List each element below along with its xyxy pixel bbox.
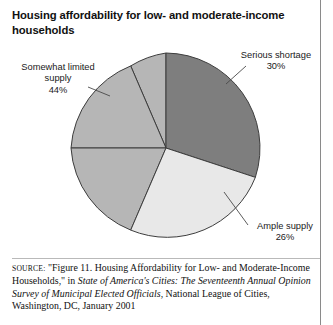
pie-label-ample-supply-line1: Ample supply xyxy=(257,221,313,231)
pie-label-ample-supply: Ample supply 26% xyxy=(245,221,325,244)
source-kicker: Source: xyxy=(12,264,45,273)
source-note: Source: "Figure 11. Housing Affordabilit… xyxy=(12,262,315,312)
pie-label-somewhat-limited-supply-line1: Somewhat limited xyxy=(21,62,94,72)
pie-label-somewhat-limited-supply-value: 44% xyxy=(6,85,110,96)
pie-label-somewhat-limited-supply: Somewhat limited supply 44% xyxy=(6,62,110,96)
figure-container: Housing affordability for low- and moder… xyxy=(0,0,333,325)
pie-label-serious-shortage-value: 30% xyxy=(228,61,324,72)
pie-label-serious-shortage-line1: Serious shortage xyxy=(241,50,311,60)
pie-label-serious-shortage: Serious shortage 30% xyxy=(228,50,324,73)
pie-label-ample-supply-value: 26% xyxy=(245,232,325,243)
page-title: Housing affordability for low- and moder… xyxy=(12,8,300,37)
pie-chart-plot-area: Somewhat limited supply 44% Serious shor… xyxy=(0,40,320,252)
pie-label-somewhat-limited-supply-line2: supply xyxy=(45,73,72,83)
frame-right-rule xyxy=(320,0,321,325)
source-divider xyxy=(12,258,320,259)
